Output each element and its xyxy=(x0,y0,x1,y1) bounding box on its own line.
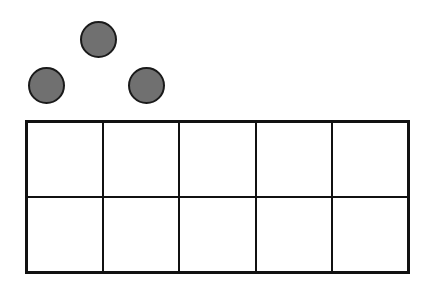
ten-frame xyxy=(25,120,410,274)
frame-cell xyxy=(179,122,255,197)
frame-cell xyxy=(179,197,255,272)
frame-cell xyxy=(27,122,103,197)
frame-cell xyxy=(256,122,332,197)
frame-cell xyxy=(103,122,179,197)
frame-cell xyxy=(332,197,408,272)
frame-cell xyxy=(103,197,179,272)
counter-3 xyxy=(128,67,165,104)
frame-cell xyxy=(332,122,408,197)
counter-1 xyxy=(80,21,117,58)
frame-cell xyxy=(27,197,103,272)
counter-2 xyxy=(28,67,65,104)
frame-cell xyxy=(256,197,332,272)
